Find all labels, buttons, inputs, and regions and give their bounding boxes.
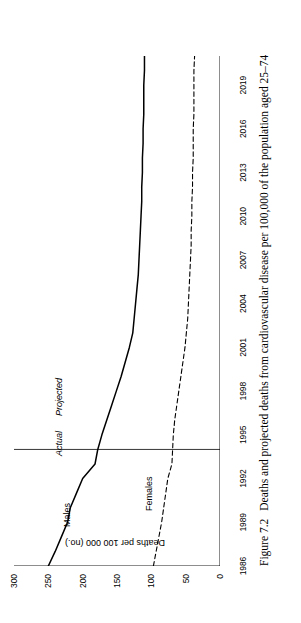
series-line-males <box>48 56 144 566</box>
series-line-females <box>153 56 194 566</box>
y-tick-label: 200 <box>78 574 88 623</box>
x-tick-label: 1995 <box>238 426 248 445</box>
annotation-projected: Projected <box>54 378 64 416</box>
x-tick-label: 2001 <box>238 338 248 357</box>
x-tick-label: 1986 <box>238 557 248 576</box>
figure-container: Deaths per 100 000 (no.) Actual Projecte… <box>0 0 301 623</box>
x-tick-label: 1989 <box>238 513 248 532</box>
y-tick-label: 50 <box>181 574 191 623</box>
figure-caption-number: Figure 7.2 <box>258 519 270 566</box>
x-tick-label: 2004 <box>238 294 248 313</box>
y-tick-label: 100 <box>146 574 156 623</box>
figure-caption: Figure 7.2Deaths and projected deaths fr… <box>258 26 270 566</box>
annotation-females-series: Females <box>144 476 154 511</box>
y-tick-label: 250 <box>43 574 53 623</box>
chart-plot-area: Deaths per 100 000 (no.) Actual Projecte… <box>14 56 220 566</box>
x-tick-label: 2019 <box>238 76 248 95</box>
y-axis-title: Deaths per 100 000 (no.) <box>35 538 195 548</box>
x-tick-label: 2016 <box>238 120 248 139</box>
annotation-males-series: Males <box>62 503 72 527</box>
y-tick-label: 150 <box>112 574 122 623</box>
x-tick-label: 2013 <box>238 163 248 182</box>
x-tick-label: 1992 <box>238 469 248 488</box>
annotation-actual: Actual <box>54 431 64 456</box>
figure-caption-text: Deaths and projected deaths from cardiov… <box>258 55 270 511</box>
y-tick-label: 0 <box>215 574 225 623</box>
rotated-figure-stage: Deaths per 100 000 (no.) Actual Projecte… <box>0 0 301 623</box>
x-tick-label: 2007 <box>238 251 248 270</box>
chart-svg <box>14 56 220 566</box>
x-tick-label: 1998 <box>238 382 248 401</box>
y-tick-label: 300 <box>9 574 19 623</box>
x-tick-label: 2010 <box>238 207 248 226</box>
